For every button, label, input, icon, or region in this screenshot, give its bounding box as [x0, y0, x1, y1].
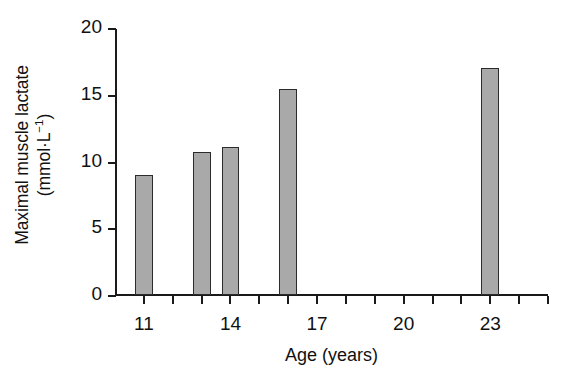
x-tick-label-23: 23	[467, 314, 513, 334]
x-tick-17	[316, 296, 318, 304]
bar-age-11	[135, 175, 153, 295]
bar-age-14	[222, 147, 240, 295]
x-tick-label-11: 11	[121, 314, 167, 334]
y-axis-units-suffix: )	[33, 114, 53, 120]
y-tick-15: 15	[108, 95, 116, 97]
y-tick-label-0: 0	[62, 284, 102, 304]
x-tick-22	[460, 296, 462, 304]
y-tick-label-15: 15	[62, 84, 102, 104]
x-tick-20	[403, 296, 405, 304]
bar-chart-figure: Maximal muscle lactate (mmol·L−1) 051015…	[0, 0, 570, 383]
y-axis-units-exponent: −1	[33, 120, 45, 133]
y-tick-10: 10	[108, 162, 116, 164]
x-tick-label-20: 20	[381, 314, 427, 334]
bar-age-23	[481, 68, 499, 295]
y-tick-20: 20	[108, 28, 116, 30]
x-tick-13	[201, 296, 203, 304]
x-tick-14	[229, 296, 231, 304]
x-tick-11	[143, 296, 145, 304]
x-tick-19	[374, 296, 376, 304]
bar-age-13	[193, 152, 211, 295]
x-tick-label-14: 14	[207, 314, 253, 334]
x-tick-15	[258, 296, 260, 304]
x-tick-18	[345, 296, 347, 304]
x-tick-21	[432, 296, 434, 304]
x-tick-24	[518, 296, 520, 304]
x-tick-12	[172, 296, 174, 304]
bar-age-16	[279, 89, 297, 295]
y-axis-units-prefix: (mmol·L	[33, 133, 53, 196]
y-tick-0: 0	[108, 295, 116, 297]
x-axis-title: Age (years)	[115, 345, 548, 366]
x-tick-label-17: 17	[294, 314, 340, 334]
y-tick-label-20: 20	[62, 17, 102, 37]
x-tick-16	[287, 296, 289, 304]
y-axis-title: Maximal muscle lactate (mmol·L−1)	[0, 0, 60, 310]
y-axis-title-line-2: (mmol·L−1)	[33, 114, 54, 196]
x-tick-23	[489, 296, 491, 304]
y-axis-title-line-1: Maximal muscle lactate	[12, 65, 33, 245]
x-tick-25	[547, 296, 549, 304]
y-tick-5: 5	[108, 228, 116, 230]
y-tick-label-10: 10	[62, 151, 102, 171]
plot-area: 05101520 1114172023	[115, 29, 548, 296]
y-tick-label-5: 5	[62, 217, 102, 237]
